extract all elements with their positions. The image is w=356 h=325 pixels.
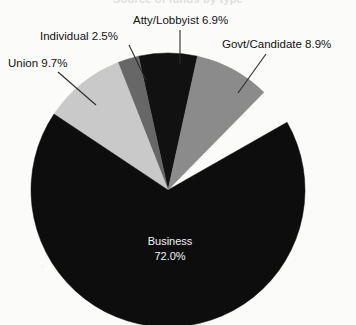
slice-label-govt-candidate: Govt/Candidate 8.9% bbox=[222, 38, 331, 51]
slice-label-individual: Individual 2.5% bbox=[40, 30, 118, 43]
slice-label-business-name: Business bbox=[108, 234, 232, 249]
slice-label-atty-lobbyist: Atty/Lobbyist 6.9% bbox=[133, 14, 228, 27]
slice-label-union: Union 9.7% bbox=[8, 57, 67, 70]
slice-label-business-value: 72.0% bbox=[108, 249, 232, 264]
slice-label-business: Business 72.0% bbox=[108, 234, 232, 263]
pie-slices-group bbox=[31, 53, 305, 325]
pie-chart-figure: Source of funds by type Union 9.7% Indiv… bbox=[0, 0, 356, 325]
